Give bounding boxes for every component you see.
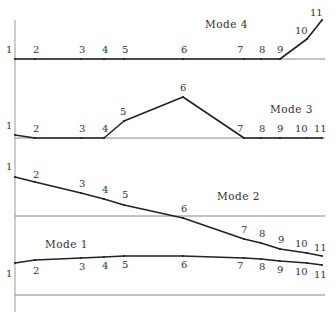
node-label: 4 [102, 44, 108, 55]
node-marker [182, 217, 184, 219]
node-marker [80, 257, 82, 259]
node-marker [321, 19, 323, 21]
mode-3-group: 1234567891011Mode 3 [6, 82, 327, 139]
node-marker [103, 198, 105, 200]
node-marker [182, 58, 184, 60]
node-marker [260, 58, 262, 60]
node-marker [14, 176, 16, 178]
node-marker [321, 264, 323, 266]
node-label: 2 [33, 265, 39, 276]
node-label: 4 [102, 184, 108, 195]
node-label: 9 [278, 234, 284, 245]
node-label: 5 [122, 259, 128, 270]
node-marker [182, 255, 184, 257]
node-marker [34, 181, 36, 183]
node-label: 8 [259, 228, 265, 239]
node-label: 3 [79, 261, 85, 272]
node-marker [321, 255, 323, 257]
node-label: 1 [6, 161, 12, 172]
node-marker [103, 137, 105, 139]
node-label: 5 [122, 44, 128, 55]
mode-4-group: 1234567891011Mode 4 [6, 7, 325, 60]
node-label: 6 [180, 82, 186, 93]
node-marker [279, 260, 281, 262]
node-label: 6 [181, 203, 187, 214]
node-marker [34, 259, 36, 261]
node-label: 2 [33, 44, 39, 55]
node-marker [260, 137, 262, 139]
mode-shape-diagram: 1234567891011Mode 41234567891011Mode 312… [0, 0, 336, 322]
modes-layer: 1234567891011Mode 41234567891011Mode 312… [6, 7, 327, 312]
node-marker [34, 137, 36, 139]
node-label: 6 [181, 44, 187, 55]
node-marker [123, 58, 125, 60]
node-label: 8 [259, 261, 265, 272]
mode-label: Mode 3 [270, 103, 313, 115]
node-marker [80, 137, 82, 139]
node-marker [123, 120, 125, 122]
node-marker [243, 58, 245, 60]
mode-label: Mode 4 [205, 18, 248, 30]
node-marker [34, 58, 36, 60]
node-marker [306, 137, 308, 139]
node-marker [321, 137, 323, 139]
node-label: 7 [237, 44, 243, 55]
node-label: 10 [295, 25, 308, 36]
node-marker [260, 258, 262, 260]
node-label: 3 [79, 44, 85, 55]
node-marker [243, 238, 245, 240]
node-marker [103, 256, 105, 258]
node-marker [306, 262, 308, 264]
node-label: 11 [314, 123, 327, 134]
node-label: 9 [277, 44, 283, 55]
node-label: 7 [241, 224, 247, 235]
node-label: 7 [237, 260, 243, 271]
node-label: 2 [33, 169, 39, 180]
node-label: 4 [102, 260, 108, 271]
node-label: 10 [295, 266, 308, 277]
mode-curve [15, 20, 322, 59]
node-label: 10 [295, 238, 308, 249]
node-label: 1 [6, 120, 12, 131]
mode-label: Mode 1 [45, 238, 88, 250]
node-marker [182, 96, 184, 98]
node-label: 1 [6, 44, 12, 55]
node-marker [123, 204, 125, 206]
node-marker [80, 58, 82, 60]
node-label: 1 [6, 268, 12, 279]
node-marker [306, 252, 308, 254]
node-label: 9 [277, 264, 283, 275]
node-label: 5 [122, 189, 128, 200]
node-marker [279, 58, 281, 60]
node-marker [279, 137, 281, 139]
node-label: 11 [314, 242, 327, 253]
node-marker [260, 242, 262, 244]
mode-1-group: 1234567891011Mode 1 [6, 238, 327, 295]
node-marker [14, 262, 16, 264]
node-label: 5 [120, 106, 126, 117]
node-label: 9 [277, 123, 283, 134]
node-label: 3 [79, 178, 85, 189]
node-label: 3 [79, 123, 85, 134]
node-label: 7 [237, 123, 243, 134]
node-label: 4 [102, 123, 108, 134]
node-marker [14, 58, 16, 60]
node-label: 11 [314, 269, 327, 280]
mode-label: Mode 2 [217, 190, 260, 202]
node-label: 2 [33, 123, 39, 134]
node-marker [306, 38, 308, 40]
node-label: 6 [181, 259, 187, 270]
node-marker [243, 257, 245, 259]
node-label: 10 [295, 123, 308, 134]
node-label: 8 [259, 44, 265, 55]
node-marker [279, 248, 281, 250]
mode-curve [15, 256, 322, 265]
node-marker [103, 58, 105, 60]
node-marker [14, 134, 16, 136]
node-label: 8 [259, 123, 265, 134]
node-marker [80, 192, 82, 194]
node-marker [243, 137, 245, 139]
node-marker [123, 255, 125, 257]
node-label: 11 [310, 7, 323, 18]
